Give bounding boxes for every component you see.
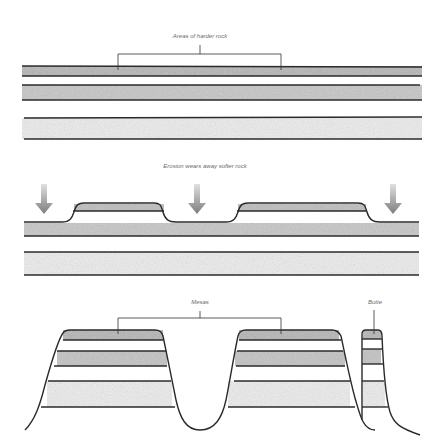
- diagram-canvas: [0, 0, 445, 446]
- erosion-arrow-icon: [384, 184, 402, 214]
- label-erosion: Erosion wears away softer rock: [163, 163, 246, 169]
- label-butte: Butte: [368, 299, 382, 305]
- mesa-2: [200, 330, 375, 430]
- panel-1-rock-layers: [22, 45, 422, 139]
- soft-rock-layer: [22, 118, 422, 139]
- label-mesas: Mesas: [191, 299, 209, 305]
- panel-3-mesas-butte: [25, 310, 420, 435]
- remaining-hard-rock-1: [74, 204, 164, 211]
- mesa-1: [25, 330, 200, 430]
- medium-rock-layer: [24, 223, 419, 236]
- erosion-arrow-icon: [35, 184, 53, 214]
- label-harder-rock: Areas of harder rock: [173, 33, 227, 39]
- mesa-formation-diagram: Areas of harder rock Erosion wears away …: [0, 0, 445, 446]
- erosion-arrow-icon: [188, 184, 206, 214]
- medium-rock-layer: [22, 85, 422, 100]
- soft-rock-layer: [24, 252, 419, 275]
- panel-2-erosion: [24, 184, 419, 275]
- butte: [362, 330, 420, 435]
- remaining-hard-rock-2: [238, 204, 366, 211]
